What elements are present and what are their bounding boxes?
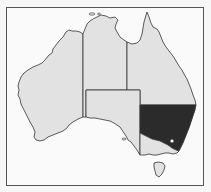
region-south-australia[interactable] [86, 90, 140, 155]
act-marker-icon[interactable] [170, 139, 173, 142]
island-groote [98, 13, 101, 15]
region-western-australia[interactable] [18, 30, 83, 141]
island-melville [89, 13, 95, 15]
australia-map [0, 0, 211, 192]
island-kangaroo [122, 138, 126, 140]
region-tasmania[interactable] [154, 162, 165, 177]
